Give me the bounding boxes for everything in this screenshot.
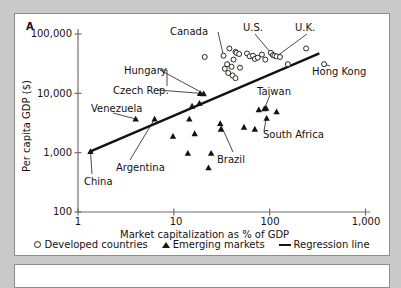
annotation-label-brazil: Brazil bbox=[217, 155, 245, 165]
annotation-label-venezuela: Venezuela bbox=[91, 104, 142, 114]
y-axis-title: Per capita GDP ($) bbox=[22, 80, 32, 172]
annotation-label-hong-kong: Hong Kong bbox=[312, 67, 366, 77]
chart-panel-b bbox=[14, 264, 390, 288]
line-segment-icon bbox=[279, 244, 291, 246]
annotation-label-czech-rep: Czech Rep. bbox=[113, 86, 169, 96]
legend-label-emerging-markets: Emerging markets bbox=[173, 239, 265, 250]
x-tick-label-10: 10 bbox=[161, 217, 191, 227]
annotation-label-taiwan: Taiwan bbox=[257, 87, 291, 97]
x-tick-label-100: 100 bbox=[255, 217, 285, 227]
annotation-label-argentina: Argentina bbox=[116, 163, 165, 173]
y-tick-label-100000: 100,000 bbox=[26, 29, 72, 39]
legend-label-regression-line: Regression line bbox=[294, 239, 370, 250]
annotation-label-south-africa: South Africa bbox=[263, 130, 324, 140]
chart-legend: Developed countries Emerging markets Reg… bbox=[14, 239, 390, 250]
y-tick-label-1000: 1,000 bbox=[26, 148, 72, 158]
filled-triangle-icon bbox=[162, 242, 170, 248]
legend-item-emerging-markets: Emerging markets bbox=[162, 239, 265, 250]
annotation-label-uk: U.K. bbox=[295, 23, 315, 33]
y-tick-label-100: 100 bbox=[26, 207, 72, 217]
open-circle-icon bbox=[34, 241, 41, 248]
legend-item-developed-countries: Developed countries bbox=[34, 239, 147, 250]
y-tick-label-10000: 10,000 bbox=[26, 89, 72, 99]
x-tick-label-1000: 1,000 bbox=[347, 217, 385, 227]
annotation-label-hungary: Hungary bbox=[124, 66, 167, 76]
legend-label-developed-countries: Developed countries bbox=[44, 239, 147, 250]
legend-item-regression-line: Regression line bbox=[279, 239, 370, 250]
annotation-label-canada: Canada bbox=[170, 27, 208, 37]
x-tick-label-1: 1 bbox=[63, 217, 93, 227]
annotation-label-us: U.S. bbox=[243, 23, 263, 33]
annotation-label-china: China bbox=[84, 177, 113, 187]
